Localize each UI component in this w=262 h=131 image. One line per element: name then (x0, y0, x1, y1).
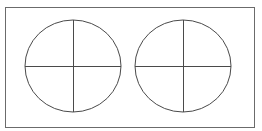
circle-right (135, 20, 231, 112)
frame-border (6, 8, 255, 128)
circle-left (25, 20, 121, 112)
diagram-canvas (0, 0, 262, 131)
